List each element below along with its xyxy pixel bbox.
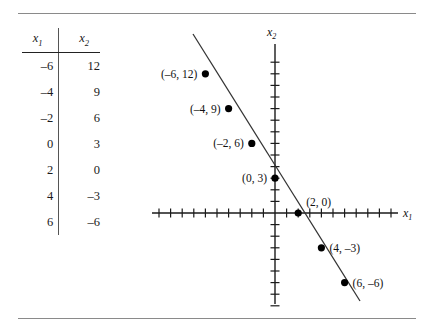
data-point (248, 140, 255, 147)
cell-x2: 9 (59, 79, 100, 105)
table-row: –4 9 (22, 79, 100, 105)
table-row: –2 6 (22, 105, 100, 131)
coordinate-plot: (–6, 12)(–4, 9)(–2, 6)(0, 3)(2, 0)(4, –3… (120, 14, 434, 318)
y-axis-label: x2 (266, 25, 276, 41)
x-axis-label: x1 (402, 206, 412, 222)
data-point (318, 244, 325, 251)
data-point-label: (0, 3) (242, 172, 267, 185)
data-point (225, 105, 232, 112)
cell-x1: 2 (22, 157, 59, 183)
data-point-label: (–6, 12) (161, 68, 198, 81)
bottom-horizontal-rule (18, 318, 416, 319)
column-header-x2: x2 (59, 28, 100, 53)
data-point (271, 175, 278, 182)
cell-x1: 4 (22, 183, 59, 209)
data-table: x1 x2 –6 12 –4 9 –2 6 0 3 2 0 (22, 28, 100, 235)
table-header-row: x1 x2 (22, 28, 100, 53)
table-row: –6 12 (22, 53, 100, 80)
cell-x1: –4 (22, 79, 59, 105)
cell-x2: 6 (59, 105, 100, 131)
cell-x1: 6 (22, 209, 59, 235)
column-header-x1: x1 (22, 28, 59, 53)
data-point-label: (–4, 9) (190, 103, 221, 116)
data-point-label: (6, –6) (353, 277, 384, 290)
data-point (202, 70, 209, 77)
data-point-label: (–2, 6) (213, 137, 244, 150)
table-row: 4 –3 (22, 183, 100, 209)
cell-x2: 12 (59, 53, 100, 80)
data-point-label: (2, 0) (306, 196, 331, 209)
data-point (295, 209, 302, 216)
data-point-label: (4, –3) (329, 242, 360, 255)
cell-x2: –3 (59, 183, 100, 209)
axes-group (152, 44, 398, 304)
cell-x2: 0 (59, 157, 100, 183)
cell-x1: 0 (22, 131, 59, 157)
cell-x1: –2 (22, 105, 59, 131)
table-row: 6 –6 (22, 209, 100, 235)
table-row: 2 0 (22, 157, 100, 183)
data-point (341, 279, 348, 286)
table-row: 0 3 (22, 131, 100, 157)
cell-x2: –6 (59, 209, 100, 235)
cell-x2: 3 (59, 131, 100, 157)
cell-x1: –6 (22, 53, 59, 80)
